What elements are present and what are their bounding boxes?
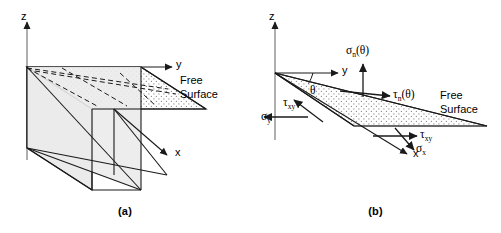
axis-label-z: z xyxy=(269,10,275,23)
stress-label-tau-xy-lower: τxy xyxy=(420,128,432,142)
stress-label-sigma-y: σy xyxy=(261,110,271,124)
sigma-x-arrow xyxy=(395,128,414,150)
stress-label-tau-xy-upper: τxy xyxy=(283,96,295,110)
angle-label-theta: θ xyxy=(310,84,316,98)
tau-xy-upper-arrow xyxy=(294,100,323,122)
stress-label-sigma-x: σx xyxy=(416,142,426,156)
free-surface-label-line1: Free xyxy=(180,74,203,87)
stress-label-tau-n-theta: τn(θ) xyxy=(393,88,415,102)
stress-arrow-tau-xy-upper xyxy=(294,100,323,122)
stress-label-sigma-n-theta: σn(θ) xyxy=(346,44,369,58)
free-surface-label-line2: Surface xyxy=(440,103,478,116)
panel-b: z y x θ σn(θ) τn(θ) τxy σy τxy σx Free S… xyxy=(250,0,501,233)
panel-a: z y x Free Surface (a) xyxy=(0,0,250,233)
free-surface-label-line2: Surface xyxy=(180,88,218,101)
free-surface-label-line1: Free xyxy=(440,89,463,102)
panel-b-drawing xyxy=(250,0,501,233)
axis-label-z: z xyxy=(21,10,27,23)
caption-panel-b: (b) xyxy=(250,205,501,217)
axis-label-y: y xyxy=(342,64,348,77)
caption-panel-a: (a) xyxy=(0,205,250,217)
axis-label-x: x xyxy=(175,146,181,159)
panel-a-drawing xyxy=(0,0,250,233)
axis-label-y: y xyxy=(176,58,182,71)
stress-arrow-sigma-x xyxy=(395,128,414,150)
figure-container: z y x Free Surface (a) xyxy=(0,0,501,233)
